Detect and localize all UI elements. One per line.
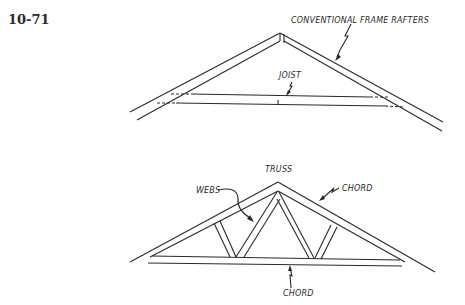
webs-label: WEBS xyxy=(196,186,220,195)
truss-diagram: TRUSS WEBS CHORD CHORD xyxy=(130,165,435,298)
bottom-chord-label: CHORD xyxy=(283,289,314,298)
joist-label: JOIST xyxy=(277,71,302,80)
roof-framing-diagram: CONVENTIONAL FRAME RAFTERS JOIST TRUSS W… xyxy=(0,0,465,305)
rafters-label: CONVENTIONAL FRAME RAFTERS xyxy=(291,16,429,25)
truss-label: TRUSS xyxy=(265,165,292,174)
conventional-frame-diagram: CONVENTIONAL FRAME RAFTERS JOIST xyxy=(130,16,443,131)
top-chord-label: CHORD xyxy=(342,184,373,193)
